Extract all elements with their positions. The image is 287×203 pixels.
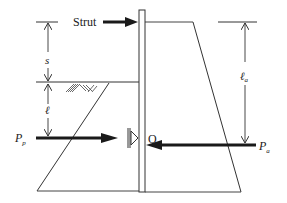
strut-label: Strut [73,15,97,29]
dimension-l: ℓ [45,84,50,136]
strut-force: Strut [73,15,138,29]
pp-label: Pp [14,131,26,147]
arrow-right-icon [125,17,138,27]
dimension-s: s [36,22,58,81]
soil-hatch-icon [66,84,97,92]
arrow-right-icon [101,133,118,143]
active-pressure-diagram [145,22,241,192]
active-force-pa: Pa [146,139,270,155]
dimension-la: ℓa [218,22,257,143]
diagram-canvas: Strut s ℓ ℓa Pa Pp O [0,0,287,203]
passive-force-pp: Pp [14,131,118,147]
s-label: s [45,54,49,66]
pivot-label: O [148,132,157,146]
pivot-support-icon [128,128,138,148]
l-label: ℓ [45,104,50,116]
pa-label: Pa [258,139,270,155]
sheet-pile-wall [139,10,145,192]
la-label: ℓa [240,70,249,84]
